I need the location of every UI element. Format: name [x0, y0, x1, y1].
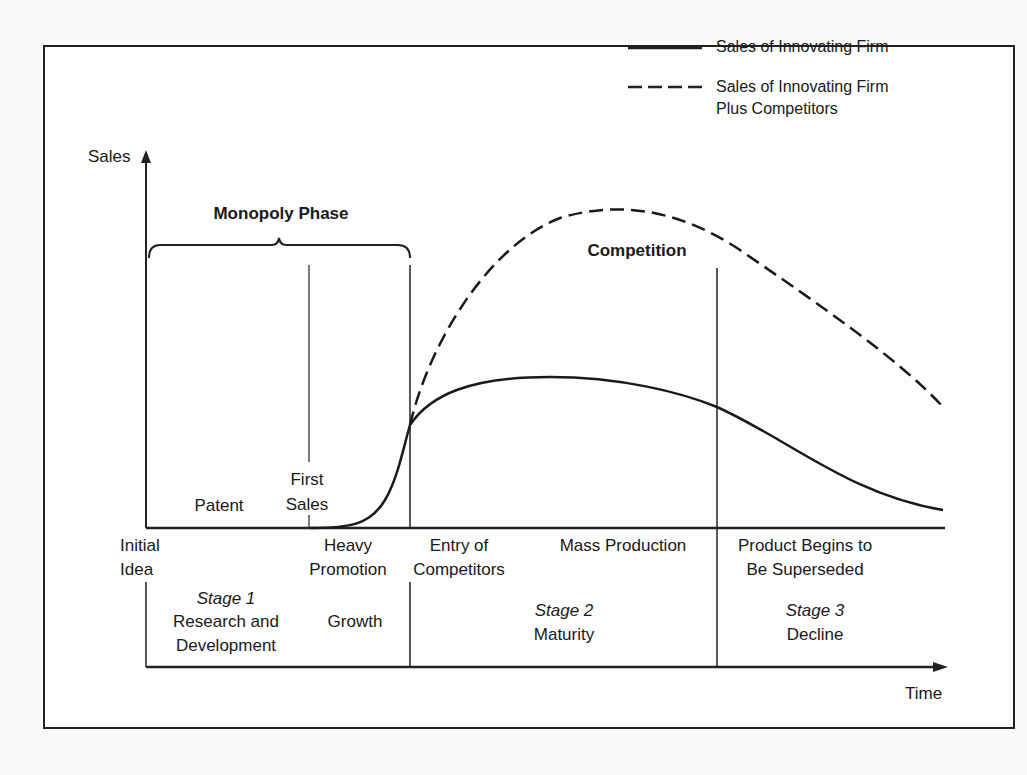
stage2-title: Stage 2: [535, 600, 594, 621]
growth-label: Growth: [328, 611, 383, 632]
monopoly-phase-label: Monopoly Phase: [213, 203, 348, 224]
patent-label: Patent: [194, 495, 243, 516]
y-axis-label: Sales: [88, 146, 131, 167]
superseded-label-2: Be Superseded: [746, 559, 863, 580]
mass-production-label: Mass Production: [560, 535, 687, 556]
legend-dashed-label-2: Plus Competitors: [716, 98, 838, 119]
stage1-name-1: Research and: [173, 611, 279, 632]
stage1-name-2: Development: [176, 635, 276, 656]
first-sales-label-2: Sales: [286, 494, 329, 515]
stage1-title: Stage 1: [197, 588, 256, 609]
innovating-firm-sales-line: [310, 377, 943, 528]
entry-competitors-label-2: Competitors: [413, 559, 505, 580]
time-axis-arrow-icon: [933, 662, 948, 672]
first-sales-label-1: First: [290, 469, 323, 490]
stage3-name: Decline: [787, 624, 844, 645]
legend-dashed-label-1: Sales of Innovating Firm: [716, 76, 889, 97]
product-life-cycle-diagram: [0, 0, 1027, 775]
legend-solid-label: Sales of Innovating Firm: [716, 36, 889, 57]
x-axis-label: Time: [905, 683, 942, 704]
heavy-promotion-label-1: Heavy: [324, 535, 372, 556]
initial-idea-label-2: Idea: [120, 559, 153, 580]
competition-label: Competition: [587, 240, 686, 261]
superseded-label-1: Product Begins to: [738, 535, 872, 556]
y-axis-arrow-icon: [141, 150, 151, 163]
stage2-name: Maturity: [534, 624, 594, 645]
heavy-promotion-label-2: Promotion: [309, 559, 386, 580]
stage3-title: Stage 3: [786, 600, 845, 621]
entry-competitors-label-1: Entry of: [430, 535, 489, 556]
monopoly-brace: [149, 238, 410, 258]
initial-idea-label-1: Initial: [120, 535, 160, 556]
